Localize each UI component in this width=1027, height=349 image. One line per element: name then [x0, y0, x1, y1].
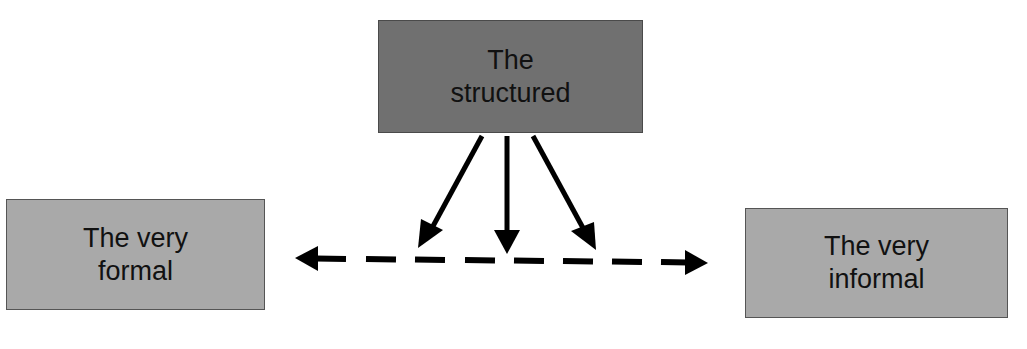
arrow-down-icon	[494, 136, 520, 254]
arrow-down-right-icon	[533, 136, 596, 250]
arrow-down-left-icon	[418, 136, 482, 248]
dashed-continuum-arrow-icon	[295, 246, 708, 275]
arrows-layer	[0, 0, 1027, 349]
